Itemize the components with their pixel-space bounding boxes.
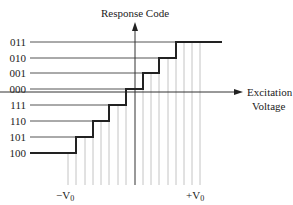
- code-labels: 011 010 001 000 111 110 101 100: [10, 36, 27, 159]
- x-axis-label-line2: Voltage: [252, 100, 286, 112]
- neg-v0-label: −V0: [56, 189, 74, 203]
- y-axis-label: Response Code: [101, 7, 169, 19]
- code-label: 100: [10, 147, 27, 159]
- x-axis: [0, 89, 243, 95]
- vertical-grid-lines: [68, 42, 200, 185]
- y-axis-arrow-icon: [132, 22, 138, 31]
- x-axis-arrow-icon: [234, 89, 243, 95]
- code-label: 000: [10, 83, 27, 95]
- x-axis-label-line1: Excitation: [247, 86, 293, 98]
- y-axis: [132, 22, 138, 185]
- code-label: 101: [10, 131, 27, 143]
- pos-v0-label: +V0: [186, 189, 204, 203]
- code-label: 111: [10, 99, 26, 111]
- code-label: 011: [10, 36, 26, 48]
- code-level-lines: [30, 42, 176, 137]
- code-label: 010: [10, 52, 27, 64]
- code-label: 110: [10, 115, 27, 127]
- code-label: 001: [10, 67, 27, 79]
- adc-transfer-diagram: Response Code Excitation Voltage 011 010…: [0, 0, 293, 205]
